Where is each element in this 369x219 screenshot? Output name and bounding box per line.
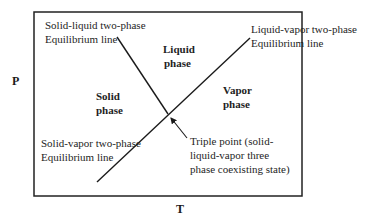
liquid-phase-region: Liquid phase xyxy=(163,42,195,70)
solid-liquid-label: Solid-liquid two-phase Equilibrium line xyxy=(45,18,146,46)
pressure-axis-label: P xyxy=(12,74,19,89)
solid-vapor-label: Solid-vapor two-phase Equilibrium line xyxy=(41,136,141,164)
solid-phase-region: Solid phase xyxy=(96,89,123,117)
temperature-axis-label: T xyxy=(176,202,184,217)
triple-point-label: Triple point (solid- liquid-vapor three … xyxy=(190,134,290,176)
solid-liquid-equilibrium-line xyxy=(117,37,168,114)
phase-diagram: P T Solid-liquid two-phase Equilibrium l… xyxy=(0,0,369,219)
liquid-vapor-label: Liquid-vapor two-phase Equilibrium line xyxy=(251,22,357,50)
vapor-phase-region: Vapor phase xyxy=(223,83,252,111)
triple-point-arrow xyxy=(171,118,187,138)
